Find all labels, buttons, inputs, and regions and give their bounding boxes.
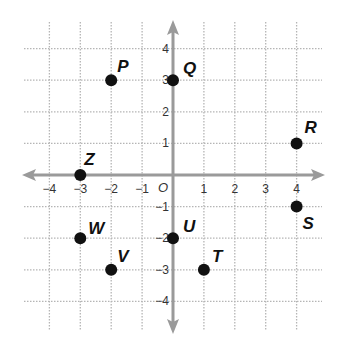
point-q: Q — [167, 59, 196, 86]
point-r: R — [291, 118, 318, 149]
x-tick-label: −3 — [73, 182, 87, 196]
point-marker — [291, 201, 303, 213]
point-label: Z — [83, 150, 95, 169]
point-label: V — [117, 247, 130, 266]
x-tick-label: 3 — [262, 182, 269, 196]
point-marker — [74, 169, 86, 181]
origin-label: O — [158, 180, 168, 195]
coordinate-plane: −4−3−2−112344321−1−2−3−4O PQRZSWUVT — [0, 0, 341, 342]
x-tick-label: −2 — [104, 182, 118, 196]
point-marker — [291, 137, 303, 149]
y-tick-label: 4 — [162, 42, 169, 56]
point-label: W — [88, 219, 106, 238]
point-label: S — [303, 214, 315, 233]
point-label: P — [117, 57, 129, 76]
x-tick-label: 1 — [201, 182, 208, 196]
x-tick-label: −4 — [43, 182, 57, 196]
point-v: V — [105, 247, 130, 276]
y-tick-label: 1 — [162, 136, 169, 150]
point-marker — [74, 232, 86, 244]
y-tick-label: −4 — [155, 294, 169, 308]
x-tick-label: 2 — [231, 182, 238, 196]
point-w: W — [74, 219, 106, 244]
x-tick-label: −1 — [135, 182, 149, 196]
point-p: P — [105, 57, 129, 86]
point-label: R — [305, 118, 318, 137]
x-tick-label: 4 — [293, 182, 300, 196]
point-marker — [198, 264, 210, 276]
point-marker — [105, 74, 117, 86]
y-tick-label: −1 — [155, 200, 169, 214]
point-marker — [105, 264, 117, 276]
point-label: Q — [183, 59, 196, 78]
y-tick-label: 2 — [162, 105, 169, 119]
point-marker — [167, 232, 179, 244]
point-u: U — [167, 217, 196, 244]
y-tick-label: −3 — [155, 263, 169, 277]
point-label: T — [212, 247, 224, 266]
point-s: S — [291, 201, 315, 233]
axes — [22, 20, 325, 334]
point-marker — [167, 74, 179, 86]
point-t: T — [198, 247, 224, 276]
point-label: U — [183, 217, 196, 236]
